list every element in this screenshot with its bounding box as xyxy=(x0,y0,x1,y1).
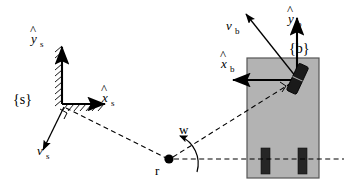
reference-point-dot xyxy=(164,154,173,163)
label-v-s-subscript: s xyxy=(46,151,50,161)
diagram-canvas: y ^ s x ^ s v s {s} y ^ b x ^ b xyxy=(0,0,349,190)
label-frame-b: {b} xyxy=(289,41,309,56)
wheel-left xyxy=(261,148,270,174)
label-v-b-text: v xyxy=(226,18,232,33)
label-y-s-hat: ^ xyxy=(30,22,36,37)
chassis-body xyxy=(247,58,319,178)
label-x-s-hat: ^ xyxy=(101,81,107,96)
label-x-s-subscript: s xyxy=(111,98,115,108)
wheel-right xyxy=(298,148,307,174)
robot-chassis xyxy=(247,58,319,178)
label-frame-s: {s} xyxy=(13,92,32,107)
label-x-s: x ^ s xyxy=(101,81,115,108)
label-v-b: v b xyxy=(226,18,240,36)
vector-v-s xyxy=(43,107,64,150)
frames-diagram: y ^ s x ^ s v s {s} y ^ b x ^ b xyxy=(0,0,349,190)
label-y-s: y ^ s xyxy=(29,22,44,49)
heading-angle-indicator xyxy=(180,136,198,172)
label-y-s-subscript: s xyxy=(40,39,44,49)
label-point-r: r xyxy=(155,163,160,178)
label-x-b-hat: ^ xyxy=(220,47,226,62)
space-frame xyxy=(43,46,105,150)
label-x-b: x ^ b xyxy=(220,47,235,74)
label-v-b-subscript: b xyxy=(235,26,240,36)
dashed-line-s-to-r xyxy=(66,108,166,158)
angle-arc-w xyxy=(180,136,198,172)
label-x-b-subscript: b xyxy=(230,64,235,74)
label-y-b-subscript: b xyxy=(297,19,302,29)
label-angle-w: w xyxy=(179,122,189,137)
label-y-b: y ^ b xyxy=(286,2,302,29)
label-v-s: v s xyxy=(37,143,50,161)
label-y-b-hat: ^ xyxy=(287,2,293,17)
label-v-s-text: v xyxy=(37,143,43,158)
